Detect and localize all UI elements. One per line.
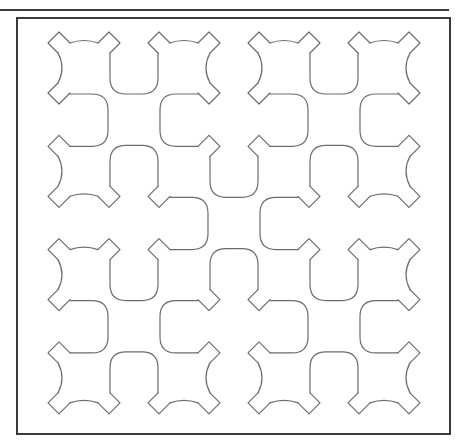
c-link-left — [360, 301, 398, 353]
ear-corner — [398, 32, 420, 53]
c-link-left — [160, 94, 198, 146]
tile-side — [58, 260, 62, 290]
c-link-right — [70, 94, 108, 146]
tile-side — [270, 400, 298, 403]
ear-corner — [48, 135, 70, 156]
tile-side — [370, 247, 398, 250]
c-link-right — [270, 301, 308, 353]
n-link — [110, 352, 158, 393]
tile-side — [70, 400, 98, 403]
ear-corner — [248, 342, 270, 363]
c-link-right — [70, 301, 108, 353]
ear-corner — [48, 32, 70, 53]
ear-corner — [398, 83, 420, 104]
u-link — [110, 53, 158, 94]
c-link-left — [160, 301, 198, 353]
ear-corner — [248, 83, 270, 104]
u-link — [310, 53, 358, 94]
n-link — [110, 145, 158, 186]
ear-corner — [248, 135, 270, 156]
tile-side — [70, 194, 98, 197]
ear-corner — [48, 342, 70, 363]
figure-frame — [17, 18, 450, 434]
n-link — [310, 145, 358, 186]
ear-corner — [48, 186, 70, 207]
tile-side — [170, 41, 198, 44]
ear-corner — [148, 186, 170, 207]
pattern-figure — [0, 0, 466, 447]
u-link — [210, 156, 258, 197]
n-link — [210, 249, 258, 290]
u-link — [310, 260, 358, 301]
ear-corner — [48, 393, 70, 414]
u-link — [110, 260, 158, 301]
tile-side — [406, 156, 410, 186]
tile-side — [406, 53, 410, 83]
tile-side — [270, 41, 298, 44]
tile-side — [58, 363, 62, 393]
ear-corner — [48, 290, 70, 311]
ear-corner — [398, 239, 420, 260]
c-link-left — [260, 197, 298, 249]
ear-corner — [198, 342, 220, 363]
ear-corner — [148, 393, 170, 414]
ear-corner — [348, 393, 370, 414]
ear-corner — [298, 32, 320, 53]
tile-side — [258, 363, 262, 393]
c-link-right — [170, 197, 208, 249]
tile-side — [170, 400, 198, 403]
tile-side — [58, 53, 62, 83]
ear-corner — [248, 393, 270, 414]
ear-corner — [248, 290, 270, 311]
ear-corner — [148, 239, 170, 260]
ear-corner — [398, 186, 420, 207]
ear-corner — [48, 239, 70, 260]
ear-corner — [98, 393, 120, 414]
tile-side — [406, 260, 410, 290]
ear-corner — [398, 135, 420, 156]
ear-corner — [398, 393, 420, 414]
ear-corner — [348, 32, 370, 53]
ear-corner — [298, 186, 320, 207]
ear-corner — [98, 186, 120, 207]
tile-side — [406, 363, 410, 393]
n-link — [310, 352, 358, 393]
ear-corner — [148, 32, 170, 53]
ear-corner — [198, 83, 220, 104]
ear-corner — [298, 239, 320, 260]
c-link-left — [360, 94, 398, 146]
ear-corner — [98, 239, 120, 260]
tile-side — [258, 53, 262, 83]
tile-side — [70, 41, 98, 44]
tile-side — [70, 247, 98, 250]
ear-corner — [98, 32, 120, 53]
tile-side — [370, 194, 398, 197]
tile-side — [370, 400, 398, 403]
ear-corner — [198, 135, 220, 156]
ear-corner — [398, 342, 420, 363]
tile-side — [206, 53, 210, 83]
ear-corner — [298, 393, 320, 414]
ear-corner — [398, 290, 420, 311]
c-link-right — [270, 94, 308, 146]
tile-pattern — [48, 32, 420, 414]
ear-corner — [198, 393, 220, 414]
ear-corner — [198, 32, 220, 53]
ear-corner — [348, 239, 370, 260]
ear-corner — [348, 186, 370, 207]
ear-corner — [248, 32, 270, 53]
ear-corner — [198, 290, 220, 311]
ear-corner — [48, 83, 70, 104]
tile-side — [370, 41, 398, 44]
tile-side — [58, 156, 62, 186]
tile-side — [206, 363, 210, 393]
